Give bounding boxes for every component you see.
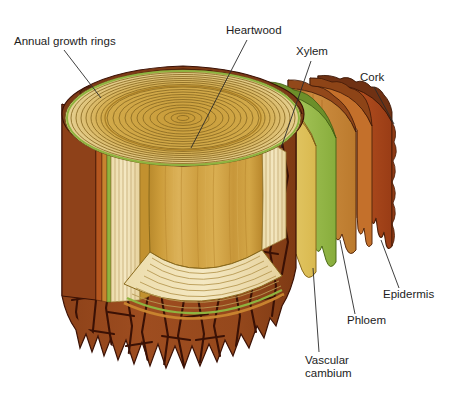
diagram-canvas: Annual growth rings Heartwood Xylem Cork…: [0, 0, 457, 403]
label-xylem: Xylem: [296, 45, 328, 57]
label-cork: Cork: [360, 71, 385, 83]
tree-trunk-diagram: Annual growth rings Heartwood Xylem Cork…: [0, 0, 457, 403]
label-vascular-cambium-line1: Vascular: [305, 354, 349, 366]
label-phloem: Phloem: [347, 314, 386, 326]
label-vascular-cambium-line2: cambium: [305, 367, 352, 379]
label-epidermis: Epidermis: [383, 288, 434, 300]
leader-vascular-cambium: [313, 268, 319, 352]
sapwood-ring-face-right: [262, 138, 286, 250]
label-annual-growth-rings: Annual growth rings: [14, 35, 116, 47]
label-heartwood: Heartwood: [226, 24, 282, 36]
